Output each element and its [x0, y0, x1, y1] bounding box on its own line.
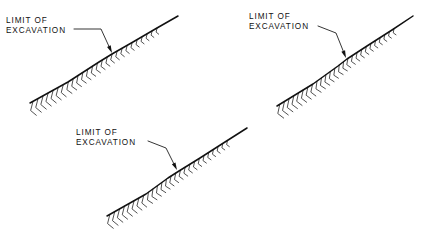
excavation-limit-drawing: LIMIT OFEXCAVATIONLIMIT OFEXCAVATIONLIMI… — [0, 0, 422, 229]
label-line-2: EXCAVATION — [76, 138, 136, 147]
label-line-1: LIMIT OF — [76, 128, 118, 137]
label-line-2: EXCAVATION — [6, 26, 66, 35]
label-line-1: LIMIT OF — [6, 16, 48, 25]
label-line-1: LIMIT OF — [249, 12, 291, 21]
label-line-2: EXCAVATION — [249, 22, 309, 31]
